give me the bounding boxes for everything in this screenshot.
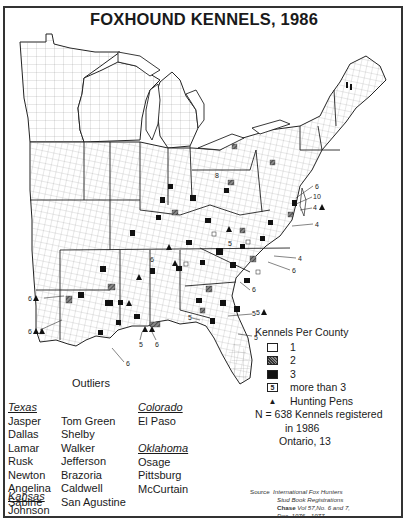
open-square-icon	[267, 343, 278, 352]
svg-text:6: 6	[155, 341, 159, 348]
legend-item-three: 3	[255, 368, 383, 382]
svg-text:6: 6	[28, 295, 32, 302]
filled-square-icon	[267, 370, 278, 379]
svg-text:6: 6	[315, 183, 319, 190]
legend-ontario-note: Ontario, 13	[255, 435, 383, 449]
legend-item-hunting-pens: ▲ Hunting Pens	[255, 395, 383, 409]
texas-counties-col2: Tom Green Shelby Walker Jefferson Brazor…	[61, 415, 126, 510]
state-name-texas: Texas	[8, 401, 126, 415]
svg-text:5: 5	[228, 240, 232, 247]
state-name-colorado: Colorado	[138, 401, 183, 415]
source-citation: Source International Fox Hunters Stud Bo…	[250, 488, 350, 520]
svg-text:6: 6	[126, 360, 130, 367]
hatched-square-icon	[267, 356, 278, 365]
outliers-kansas: Kansas Johnson	[8, 490, 50, 517]
county-lines-michigan	[154, 72, 198, 148]
state-name-oklahoma: Oklahoma	[138, 442, 188, 456]
triangle-icon: ▲	[267, 395, 278, 409]
outliers-oklahoma: Oklahoma Osage Pittsburg McCurtain	[138, 442, 188, 496]
outliers-title: Outliers	[72, 377, 110, 389]
legend-total-note: N = 638 Kennels registered	[255, 408, 383, 422]
state-name-kansas: Kansas	[8, 490, 50, 504]
legend: Kennels Per County 1 2 3 5 more than 3 ▲…	[255, 326, 383, 449]
svg-text:10: 10	[313, 193, 321, 200]
legend-item-two: 2	[255, 354, 383, 368]
legend-header: Kennels Per County	[255, 326, 383, 340]
legend-year-note: in 1986	[255, 422, 383, 436]
svg-text:5: 5	[139, 341, 143, 348]
svg-text:6: 6	[252, 286, 256, 293]
svg-text:8: 8	[215, 172, 219, 179]
svg-text:4: 4	[298, 255, 302, 262]
legend-item-more-than-three: 5 more than 3	[255, 381, 383, 395]
outliers-colorado: Colorado El Paso	[138, 401, 183, 428]
svg-text:6: 6	[28, 328, 32, 335]
svg-text:5: 5	[256, 309, 260, 316]
svg-text:6: 6	[292, 267, 296, 274]
svg-text:4: 4	[313, 204, 317, 211]
svg-text:5: 5	[188, 314, 192, 321]
legend-item-one: 1	[255, 341, 383, 355]
svg-text:4: 4	[315, 221, 319, 228]
boxed-number-icon: 5	[267, 383, 278, 392]
svg-text:6: 6	[150, 256, 154, 263]
